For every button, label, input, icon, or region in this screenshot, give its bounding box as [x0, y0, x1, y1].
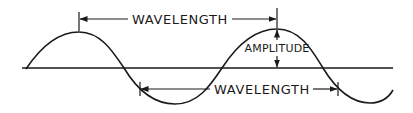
bottom-wavelength-label: WAVELENGTH [214, 82, 310, 97]
bottom-wavelength-dimension: WAVELENGTH [140, 82, 338, 97]
amplitude-label: AMPLITUDE [244, 42, 309, 55]
top-wavelength-label: WAVELENGTH [132, 12, 228, 27]
wave-diagram: WAVELENGTH AMPLITUDE WAVELENGTH [0, 0, 413, 113]
top-wavelength-dimension: WAVELENGTH [79, 8, 277, 31]
